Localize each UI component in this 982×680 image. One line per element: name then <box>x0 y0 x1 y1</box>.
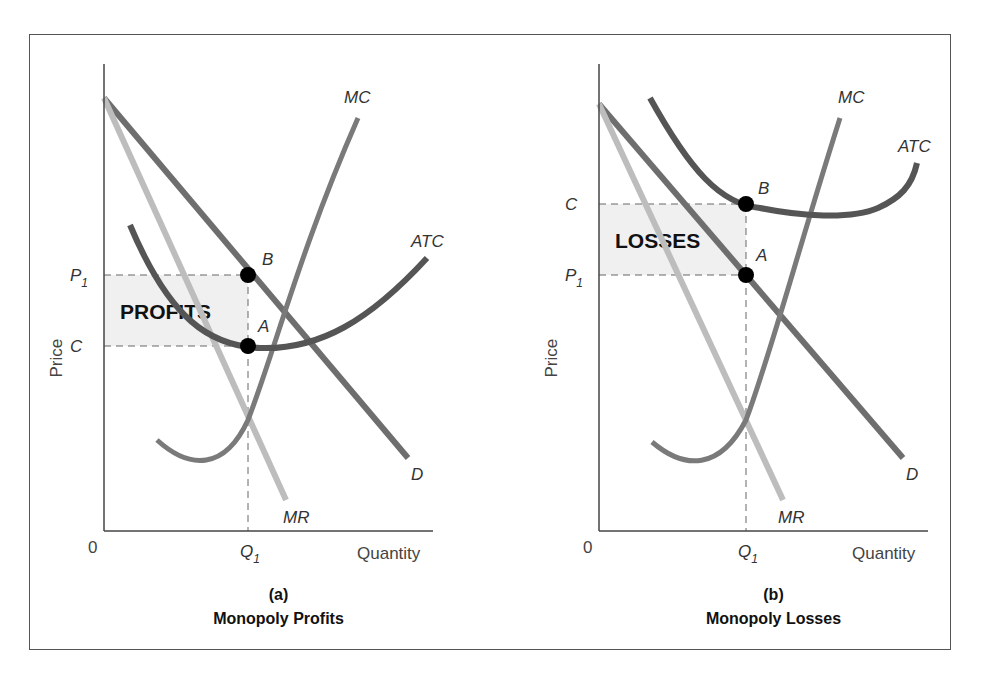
figure-stage: PROFITS B A D MR MC ATC P1 C Q1 0 Quanti… <box>0 0 982 680</box>
chart-canvas: PROFITS B A D MR MC ATC P1 C Q1 0 Quanti… <box>0 0 982 680</box>
y-tick-1: C <box>70 337 83 356</box>
atc-label: ATC <box>897 137 931 156</box>
demand-label: D <box>411 465 423 484</box>
mc-label: MC <box>344 88 371 107</box>
average-total-cost-curve <box>650 98 917 216</box>
point-b-label: B <box>262 250 273 269</box>
x-axis-label: Quantity <box>357 544 421 563</box>
panel-a: PROFITS B A D MR MC ATC P1 C Q1 0 Quanti… <box>47 64 444 627</box>
atc-label: ATC <box>410 232 444 251</box>
panel-title: Monopoly Profits <box>213 610 344 627</box>
x-axis-label: Quantity <box>852 544 916 563</box>
q1-tick-label: Q1 <box>738 542 758 566</box>
q1-tick-label: Q1 <box>240 542 260 566</box>
panel-title: Monopoly Losses <box>706 610 841 627</box>
y-axis-label: Price <box>47 339 66 378</box>
point-a-label: A <box>755 246 767 265</box>
point-a-label: A <box>257 317 269 336</box>
point-a <box>738 267 754 283</box>
mr-label: MR <box>283 508 309 527</box>
point-b-label: B <box>758 179 769 198</box>
y-tick-1: P1 <box>565 266 583 290</box>
panel-b: LOSSES B A D MR MC ATC C P1 Q1 0 Quantit… <box>542 64 931 627</box>
origin-label: 0 <box>88 538 97 557</box>
panel-letter: (b) <box>763 586 783 603</box>
mr-label: MR <box>778 508 804 527</box>
panel-letter: (a) <box>269 586 289 603</box>
demand-label: D <box>906 465 918 484</box>
origin-label: 0 <box>583 538 592 557</box>
mc-label: MC <box>838 88 865 107</box>
point-a <box>240 338 256 354</box>
y-axis-label: Price <box>542 339 561 378</box>
y-tick-0: C <box>565 195 578 214</box>
point-b <box>240 267 256 283</box>
point-b <box>738 196 754 212</box>
y-tick-0: P1 <box>70 266 88 290</box>
